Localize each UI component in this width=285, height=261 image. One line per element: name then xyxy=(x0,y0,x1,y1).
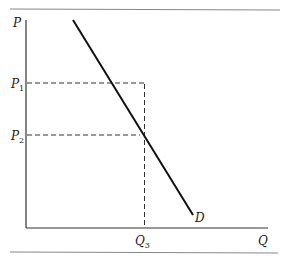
top-rule xyxy=(10,9,280,10)
demand-curve xyxy=(73,20,193,215)
q3-label: Q3 xyxy=(135,234,150,250)
x-axis-label: Q xyxy=(258,234,268,248)
bottom-rule xyxy=(10,252,278,253)
p2-label: P2 xyxy=(10,129,24,145)
y-axis-label: P xyxy=(12,16,22,30)
demand-diagram: P Q P1 P2 Q3 D xyxy=(0,0,285,261)
demand-curve-label: D xyxy=(194,211,205,225)
p1-label: P1 xyxy=(10,77,24,93)
